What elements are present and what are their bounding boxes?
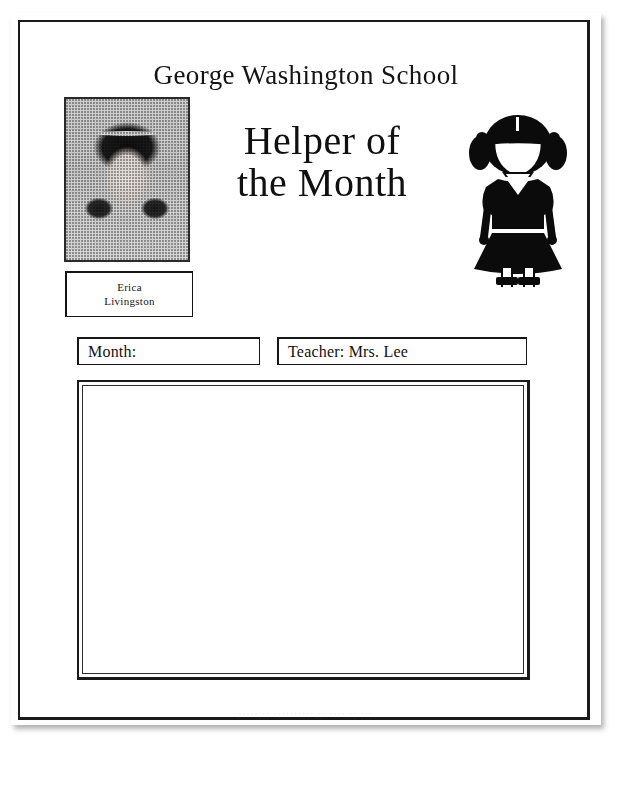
content-area[interactable] (77, 380, 530, 680)
footer-credit-line: ••••• •• •••••••••• •• ••••.•• ••• (20, 710, 592, 717)
student-first-name: Erica (117, 281, 142, 294)
scanned-page: George Washington School Helper of the M… (0, 0, 619, 789)
student-last-name: Livingston (104, 295, 155, 308)
school-title: George Washington School (20, 60, 592, 91)
page-title-line-1: Helper of (202, 120, 442, 162)
month-field[interactable]: Month: (77, 337, 260, 365)
month-field-label: Month: (88, 343, 136, 361)
page-title: Helper of the Month (202, 120, 442, 203)
content-area-inner[interactable] (82, 385, 524, 674)
page-title-line-2: the Month (202, 162, 442, 204)
student-portrait-photo (64, 97, 190, 262)
page-border-frame: George Washington School Helper of the M… (18, 20, 590, 720)
teacher-field[interactable]: Teacher: Mrs. Lee (277, 337, 527, 365)
student-name-box[interactable]: Erica Livingston (65, 271, 193, 317)
teacher-field-label: Teacher: Mrs. Lee (288, 343, 408, 361)
halftone-screen-overlay (66, 99, 188, 260)
girl-silhouette-clipart (458, 107, 578, 287)
